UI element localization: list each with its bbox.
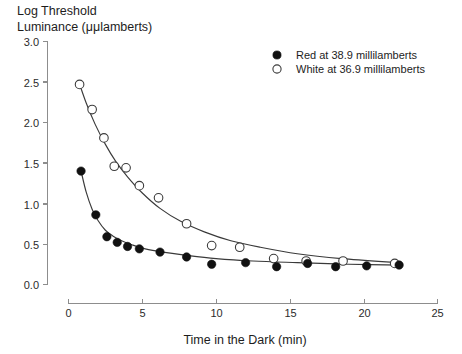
y-tick-label: 2.5 bbox=[24, 77, 39, 89]
y-tick-label: 0.0 bbox=[24, 279, 39, 291]
data-point bbox=[113, 238, 121, 246]
y-tick-label: 0.5 bbox=[24, 239, 39, 251]
data-point bbox=[123, 242, 131, 250]
data-point bbox=[182, 253, 190, 261]
red-data-points bbox=[77, 167, 403, 271]
data-point bbox=[156, 248, 164, 256]
data-point bbox=[395, 261, 403, 269]
data-point bbox=[269, 254, 278, 263]
data-point bbox=[88, 105, 97, 114]
legend: Red at 38.9 millilamberts White at 36.9 … bbox=[273, 49, 426, 75]
dark-adaptation-chart: Log Threshold Luminance (μμlamberts) 3.0… bbox=[0, 0, 462, 354]
data-point bbox=[303, 259, 311, 267]
x-tick-label: 5 bbox=[139, 307, 145, 319]
x-tick-label: 25 bbox=[431, 307, 443, 319]
y-axis-title-line1: Log Threshold bbox=[17, 4, 97, 18]
y-axis: 3.0 2.5 2.0 1.5 1.0 0.5 0.0 bbox=[24, 36, 48, 291]
data-point bbox=[100, 134, 109, 143]
legend-label-white: White at 36.9 millilamberts bbox=[296, 63, 425, 75]
y-tick-label: 3.0 bbox=[24, 36, 39, 48]
data-point bbox=[154, 194, 163, 203]
x-axis-title: Time in the Dark (min) bbox=[183, 333, 306, 347]
data-point bbox=[135, 181, 144, 190]
data-point bbox=[235, 243, 244, 252]
chart-canvas: Log Threshold Luminance (μμlamberts) 3.0… bbox=[0, 0, 462, 354]
data-point bbox=[110, 162, 119, 171]
data-point bbox=[182, 219, 191, 228]
data-point bbox=[77, 167, 85, 175]
y-tick-label: 2.0 bbox=[24, 117, 39, 129]
data-point bbox=[241, 258, 249, 266]
x-tick-label: 15 bbox=[284, 307, 296, 319]
data-point bbox=[92, 211, 100, 219]
data-point bbox=[331, 262, 339, 270]
x-axis: 0 5 10 15 20 25 Time in the Dark (min) bbox=[65, 299, 443, 347]
data-point bbox=[122, 164, 131, 173]
white-data-points bbox=[75, 80, 399, 268]
y-tick-label: 1.0 bbox=[24, 199, 39, 211]
x-tick-label: 20 bbox=[358, 307, 370, 319]
data-point bbox=[362, 262, 370, 270]
legend-label-red: Red at 38.9 millilamberts bbox=[296, 49, 418, 61]
data-point bbox=[207, 241, 216, 250]
legend-open-circle-icon bbox=[273, 65, 281, 73]
y-tick-label: 1.5 bbox=[24, 158, 39, 170]
data-point bbox=[135, 245, 143, 253]
data-point bbox=[103, 233, 111, 241]
x-tick-label: 0 bbox=[65, 307, 71, 319]
data-point bbox=[339, 257, 348, 266]
data-point bbox=[75, 80, 84, 89]
legend-filled-circle-icon bbox=[273, 51, 281, 59]
data-point bbox=[272, 262, 280, 270]
data-point bbox=[207, 260, 215, 268]
x-tick-label: 10 bbox=[210, 307, 222, 319]
y-axis-title-line2: Luminance (μμlamberts) bbox=[17, 20, 152, 34]
